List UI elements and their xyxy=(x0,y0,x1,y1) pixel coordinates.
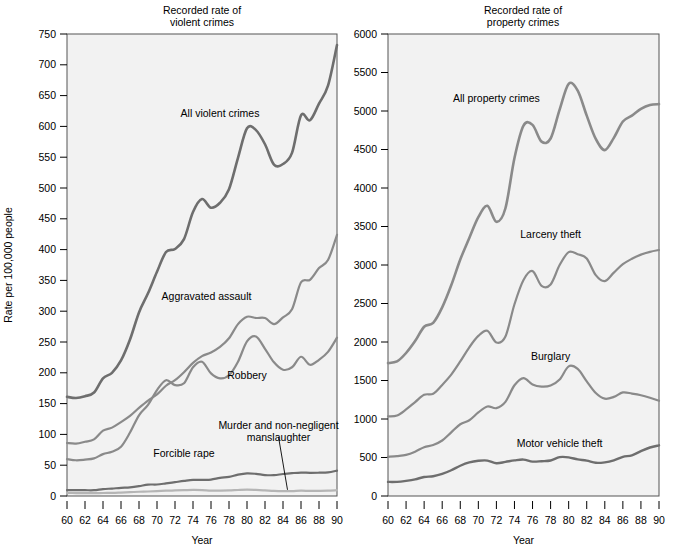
panel-title-line1-property: Recorded rate of xyxy=(484,4,562,16)
series-label-all-property-crimes: All property crimes xyxy=(453,92,540,104)
x-tick-label-property-66: 66 xyxy=(436,514,448,526)
series-label-larceny-theft: Larceny theft xyxy=(520,228,581,240)
series-label-motor-vehicle-theft: Motor vehicle theft xyxy=(517,437,603,449)
x-tick-label-violent-64: 64 xyxy=(97,514,109,526)
series-label-burglary: Burglary xyxy=(531,350,571,362)
charts-svg-canvas: Recorded rate ofviolent crimes0501001502… xyxy=(0,0,673,552)
y-tick-label-property-4500: 4500 xyxy=(354,143,378,155)
y-tick-label-violent-750: 750 xyxy=(38,28,56,40)
x-tick-label-property-84: 84 xyxy=(599,514,611,526)
series-label-aggravated-assault: Aggravated assault xyxy=(162,290,252,302)
y-tick-label-property-2000: 2000 xyxy=(354,336,378,348)
x-tick-label-property-80: 80 xyxy=(563,514,575,526)
x-tick-label-property-78: 78 xyxy=(545,514,557,526)
y-tick-label-property-3500: 3500 xyxy=(354,220,378,232)
y-tick-label-violent-600: 600 xyxy=(38,120,56,132)
x-tick-label-property-62: 62 xyxy=(400,514,412,526)
x-tick-label-violent-84: 84 xyxy=(277,514,289,526)
series-label-robbery: Robbery xyxy=(227,369,267,381)
y-tick-label-violent-500: 500 xyxy=(38,182,56,194)
x-axis-title-property: Year xyxy=(513,534,535,546)
x-tick-label-violent-66: 66 xyxy=(115,514,127,526)
y-tick-label-property-2500: 2500 xyxy=(354,297,378,309)
y-tick-label-property-500: 500 xyxy=(359,451,377,463)
x-tick-label-property-76: 76 xyxy=(527,514,539,526)
x-tick-label-violent-88: 88 xyxy=(313,514,325,526)
x-tick-label-violent-60: 60 xyxy=(61,514,73,526)
y-tick-label-property-3000: 3000 xyxy=(354,259,378,271)
x-tick-label-violent-62: 62 xyxy=(79,514,91,526)
series-label-forcible-rape: Forcible rape xyxy=(153,447,214,459)
panel-property: Recorded rate ofproperty crimes050010001… xyxy=(354,4,665,546)
x-tick-label-violent-82: 82 xyxy=(259,514,271,526)
x-tick-label-violent-86: 86 xyxy=(295,514,307,526)
y-tick-label-violent-200: 200 xyxy=(38,366,56,378)
y-tick-label-property-5500: 5500 xyxy=(354,66,378,78)
y-tick-label-property-1500: 1500 xyxy=(354,374,378,386)
y-tick-label-violent-0: 0 xyxy=(50,490,56,502)
x-tick-label-violent-72: 72 xyxy=(169,514,181,526)
x-axis-title-violent: Year xyxy=(191,534,213,546)
x-tick-label-violent-68: 68 xyxy=(133,514,145,526)
y-tick-label-violent-300: 300 xyxy=(38,305,56,317)
y-tick-label-violent-700: 700 xyxy=(38,58,56,70)
y-tick-label-violent-350: 350 xyxy=(38,274,56,286)
x-tick-label-property-86: 86 xyxy=(617,514,629,526)
x-tick-label-violent-74: 74 xyxy=(187,514,199,526)
panel-title-line2-violent: violent crimes xyxy=(170,16,234,28)
panel-title-line1-violent: Recorded rate of xyxy=(163,4,241,16)
x-tick-label-violent-76: 76 xyxy=(205,514,217,526)
x-tick-label-property-74: 74 xyxy=(509,514,521,526)
x-tick-label-violent-78: 78 xyxy=(223,514,235,526)
x-tick-label-violent-70: 70 xyxy=(151,514,163,526)
y-tick-label-property-5000: 5000 xyxy=(354,105,378,117)
x-tick-label-violent-80: 80 xyxy=(241,514,253,526)
crime-rate-figure: Recorded rate ofviolent crimes0501001502… xyxy=(0,0,673,552)
y-tick-label-violent-400: 400 xyxy=(38,243,56,255)
series-label-murder-and-non-negligent-manslaughter-line1: Murder and non-negligent xyxy=(218,419,338,431)
x-tick-label-property-88: 88 xyxy=(635,514,647,526)
x-tick-label-property-72: 72 xyxy=(491,514,503,526)
x-tick-label-property-70: 70 xyxy=(472,514,484,526)
x-tick-label-property-60: 60 xyxy=(382,514,394,526)
y-tick-label-property-6000: 6000 xyxy=(354,28,378,40)
y-tick-label-violent-150: 150 xyxy=(38,397,56,409)
y-tick-label-violent-450: 450 xyxy=(38,212,56,224)
x-tick-label-property-68: 68 xyxy=(454,514,466,526)
x-tick-label-violent-90: 90 xyxy=(331,514,343,526)
y-tick-label-violent-50: 50 xyxy=(44,459,56,471)
y-axis-title-violent: Rate per 100,000 people xyxy=(2,207,14,323)
panel-title-line2-property: property crimes xyxy=(487,16,559,28)
panel-violent: Recorded rate ofviolent crimes0501001502… xyxy=(2,4,343,546)
y-tick-label-violent-100: 100 xyxy=(38,428,56,440)
y-tick-label-violent-650: 650 xyxy=(38,89,56,101)
x-tick-label-property-82: 82 xyxy=(581,514,593,526)
y-tick-label-property-0: 0 xyxy=(371,490,377,502)
y-tick-label-violent-550: 550 xyxy=(38,151,56,163)
x-tick-label-property-64: 64 xyxy=(418,514,430,526)
y-tick-label-property-1000: 1000 xyxy=(354,413,378,425)
series-label-all-violent-crimes: All violent crimes xyxy=(181,107,260,119)
x-tick-label-property-90: 90 xyxy=(653,514,665,526)
y-tick-label-property-4000: 4000 xyxy=(354,182,378,194)
y-tick-label-violent-250: 250 xyxy=(38,336,56,348)
